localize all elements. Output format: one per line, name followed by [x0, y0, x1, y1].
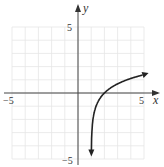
y-axis-arrow-icon — [75, 4, 81, 12]
y-tick-max: 5 — [67, 22, 72, 33]
chart: y x 5 −5 −5 5 — [0, 0, 164, 167]
x-axis-label: x — [152, 93, 159, 107]
curve-end-arrow-icon — [142, 72, 149, 78]
x-tick-min: −5 — [3, 95, 14, 106]
log-curve — [91, 75, 142, 151]
x-tick-max: 5 — [139, 95, 144, 106]
y-axis-label: y — [82, 1, 89, 15]
y-tick-min: −5 — [62, 155, 73, 166]
curve-start-arrow-icon — [88, 149, 94, 156]
